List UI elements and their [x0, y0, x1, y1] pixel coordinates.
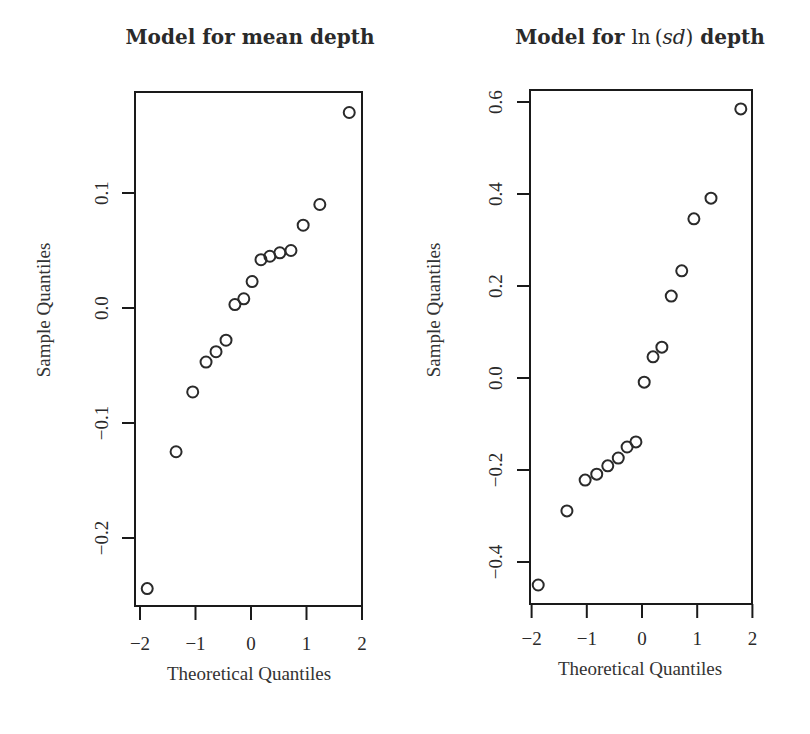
data-point [221, 335, 232, 346]
data-point [211, 346, 222, 357]
x-tick-label: 1 [302, 633, 312, 654]
y-tick-label: 0.0 [91, 296, 112, 320]
x-axis: −2−1012 [130, 606, 367, 654]
y-axis-label: Sample Quantiles [33, 243, 54, 378]
y-tick-label: −0.1 [91, 406, 112, 440]
panel-mean-depth: Model for mean depth −2−1012 −0.2−0.10.0… [33, 25, 375, 684]
data-point [274, 247, 285, 258]
data-point [187, 386, 198, 397]
y-tick-label: −0.2 [485, 453, 506, 487]
y-tick-label: 0.2 [485, 274, 506, 298]
data-point [142, 583, 153, 594]
x-axis: −2−1012 [521, 604, 757, 649]
data-point [602, 460, 613, 471]
data-point [298, 220, 309, 231]
data-point [344, 107, 355, 118]
data-point [238, 293, 249, 304]
data-point [591, 469, 602, 480]
data-point [648, 351, 659, 362]
data-point [613, 453, 624, 464]
x-tick-label: 0 [246, 633, 256, 654]
y-axis: −0.2−0.10.00.1 [91, 181, 135, 555]
panel-title: Model for mean depth [125, 25, 374, 49]
y-axis-label: Sample Quantiles [423, 243, 444, 378]
data-point [688, 213, 699, 224]
y-tick-label: 0.1 [91, 181, 112, 205]
data-points [533, 103, 747, 590]
data-point [580, 475, 591, 486]
x-tick-label: −1 [185, 633, 205, 654]
x-tick-label: −1 [577, 628, 597, 649]
data-point [630, 436, 641, 447]
data-point [201, 357, 212, 368]
y-tick-label: −0.2 [91, 521, 112, 555]
qq-plots-figure: Model for mean depth −2−1012 −0.2−0.10.0… [0, 0, 810, 734]
y-tick-label: −0.4 [485, 544, 506, 579]
data-point [533, 580, 544, 591]
y-tick-label: 0.4 [485, 182, 506, 206]
data-point [314, 199, 325, 210]
data-point [285, 245, 296, 256]
data-point [639, 377, 650, 388]
plot-frame [135, 92, 362, 606]
x-tick-label: 2 [748, 628, 758, 649]
y-tick-label: 0.6 [485, 90, 506, 114]
x-axis-label: Theoretical Quantiles [167, 663, 331, 684]
x-tick-label: 2 [357, 633, 367, 654]
panel-ln-sd-depth: Model for ln (sd) depth −2−1012 −0.4−0.2… [423, 25, 765, 679]
panel-title: Model for ln (sd) depth [515, 25, 765, 49]
plot-frame [530, 90, 752, 604]
x-tick-label: 1 [692, 628, 702, 649]
x-tick-label: −2 [521, 628, 541, 649]
data-point [666, 291, 677, 302]
x-tick-label: 0 [637, 628, 647, 649]
data-point [247, 276, 258, 287]
x-tick-label: −2 [130, 633, 150, 654]
data-point [171, 446, 182, 457]
data-points [142, 107, 355, 594]
y-tick-label: 0.0 [485, 366, 506, 390]
data-point [706, 193, 717, 204]
x-axis-label: Theoretical Quantiles [558, 658, 722, 679]
data-point [676, 265, 687, 276]
data-point [735, 103, 746, 114]
y-axis: −0.4−0.20.00.20.40.6 [485, 90, 530, 579]
data-point [656, 342, 667, 353]
data-point [561, 505, 572, 516]
